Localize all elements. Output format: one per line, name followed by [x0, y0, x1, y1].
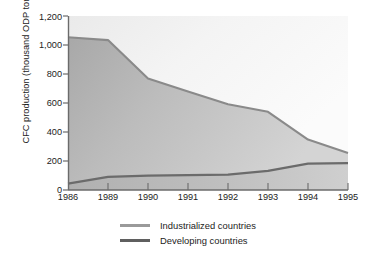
legend-item-developing-countries: Developing countries [120, 233, 360, 248]
legend-label-developing-countries: Developing countries [160, 235, 248, 246]
chart-legend: Industrialized countries Developing coun… [120, 218, 360, 248]
y-axis-ticks [63, 16, 68, 190]
legend-swatch-developing-countries [120, 239, 150, 242]
chart-figure: CFC production (thousand ODP tonnes) 1,2… [0, 0, 373, 260]
legend-label-industrialized-countries: Industrialized countries [160, 220, 256, 231]
legend-swatch-industrialized-countries [120, 224, 150, 227]
legend-item-industrialized-countries: Industrialized countries [120, 218, 360, 233]
